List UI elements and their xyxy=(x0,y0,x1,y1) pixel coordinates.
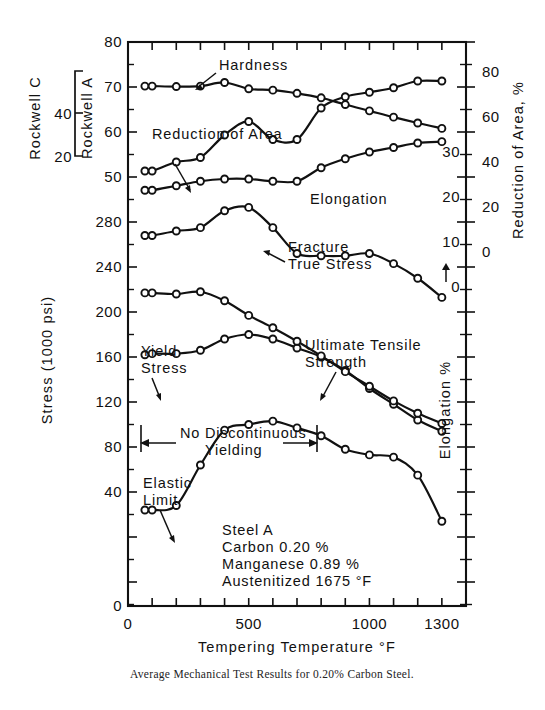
elongation-axis-label-2: 10 xyxy=(442,233,460,250)
data-point xyxy=(294,90,301,97)
left-axis-label-3: 50 xyxy=(104,168,122,185)
data-point xyxy=(438,78,445,85)
left-axis-label-1: 70 xyxy=(104,78,122,95)
data-point xyxy=(414,120,421,127)
x-axis-title: Tempering Temperature °F xyxy=(198,639,396,655)
x-axis-labels: 050010001300 xyxy=(124,615,460,632)
y-axis-elongation-ticks xyxy=(457,42,466,605)
data-point xyxy=(390,144,397,151)
rockwell-c-label-20: 20 xyxy=(54,148,72,165)
data-point xyxy=(173,83,180,90)
data-point xyxy=(245,118,252,125)
data-point xyxy=(221,207,228,214)
data-point xyxy=(438,125,445,132)
uts-leader xyxy=(320,372,336,401)
data-point xyxy=(414,78,421,85)
data-point xyxy=(245,312,252,319)
series-label-fracture-2: True Stress xyxy=(288,256,372,272)
data-point xyxy=(173,159,180,166)
data-point xyxy=(318,105,325,112)
ndy-line2: Yielding xyxy=(205,442,262,458)
reduction-axis-label-0: 80 xyxy=(482,63,500,80)
data-point xyxy=(173,228,180,235)
data-point xyxy=(342,93,349,100)
data-point xyxy=(221,336,228,343)
series-ultimate-tensile-strength xyxy=(141,288,445,427)
data-point xyxy=(141,187,148,194)
data-point xyxy=(245,204,252,211)
data-point xyxy=(269,324,276,331)
series-label-fracture-1: Fracture xyxy=(288,239,349,255)
fracture-leader xyxy=(263,250,285,262)
data-point xyxy=(269,418,276,425)
data-point xyxy=(149,289,156,296)
specimen-line4: Austenitized 1675 °F xyxy=(222,573,372,589)
elongation-up-arrow-icon xyxy=(442,263,450,282)
data-point xyxy=(197,178,204,185)
data-point xyxy=(294,338,301,345)
y-axis-left-ticks xyxy=(128,42,137,605)
elongation-axis-title: Elongation % xyxy=(437,361,453,460)
series-label-reduction-1: Reduction of Area xyxy=(152,126,283,142)
data-point xyxy=(318,94,325,101)
left-axis-label-9: 80 xyxy=(104,438,122,455)
left-axis-label-11: 0 xyxy=(113,597,122,614)
data-point xyxy=(221,79,228,86)
data-curves xyxy=(141,78,445,525)
data-point xyxy=(366,383,373,390)
series-label-elastic-2: Limit xyxy=(143,492,178,508)
specimen-line1: Steel A xyxy=(222,522,274,538)
data-point xyxy=(390,260,397,267)
data-point xyxy=(173,291,180,298)
data-point xyxy=(197,347,204,354)
x-axis-label-3: 1300 xyxy=(424,615,459,632)
elastic-leader xyxy=(160,510,175,543)
ndy-line1: No Discontinuous xyxy=(180,425,306,441)
data-point xyxy=(390,114,397,121)
data-point xyxy=(269,336,276,343)
data-point xyxy=(414,410,421,417)
data-point xyxy=(366,107,373,114)
left-axis-label-10: 40 xyxy=(104,483,122,500)
series-label-elongation: Elongation xyxy=(310,191,388,207)
data-point xyxy=(366,149,373,156)
no-discontinuous-yielding-annotation: No Discontinuous Yielding xyxy=(140,425,318,458)
data-point xyxy=(414,472,421,479)
data-point xyxy=(149,168,156,175)
x-axis-top-ticks xyxy=(128,42,466,50)
right-axis-labels: 3020100806040200 xyxy=(442,63,499,295)
data-point xyxy=(294,136,301,143)
data-point xyxy=(390,397,397,404)
reduction-axis-label-3: 20 xyxy=(482,198,500,215)
figure-caption: Average Mechanical Test Results for 0.20… xyxy=(130,668,414,681)
specimen-annotation: Steel A Carbon 0.20 % Manganese 0.89 % A… xyxy=(222,522,372,589)
data-point xyxy=(173,182,180,189)
reduction-axis-label-2: 40 xyxy=(482,153,500,170)
x-axis-bottom-ticks xyxy=(128,598,466,606)
series-label-hardness: Hardness xyxy=(219,57,288,73)
data-point xyxy=(390,84,397,91)
data-point xyxy=(366,89,373,96)
specimen-line2: Carbon 0.20 % xyxy=(222,539,329,555)
figure-root: 8070605028024020016012080400 Stress (100… xyxy=(0,0,545,710)
data-point xyxy=(318,164,325,171)
series-label-yield-1: Yield xyxy=(141,343,177,359)
data-point xyxy=(149,187,156,194)
left-axis-label-0: 80 xyxy=(104,33,122,50)
data-point xyxy=(269,178,276,185)
data-point xyxy=(438,294,445,301)
data-point xyxy=(438,518,445,525)
data-point xyxy=(245,331,252,338)
data-point xyxy=(221,176,228,183)
data-point xyxy=(197,154,204,161)
elongation-axis-label-1: 20 xyxy=(442,188,460,205)
data-point xyxy=(221,297,228,304)
x-axis-label-2: 1000 xyxy=(352,615,387,632)
data-point xyxy=(141,168,148,175)
data-point xyxy=(269,87,276,94)
data-point xyxy=(141,232,148,239)
data-point xyxy=(197,288,204,295)
data-point xyxy=(414,275,421,282)
data-point xyxy=(390,454,397,461)
data-point xyxy=(342,155,349,162)
